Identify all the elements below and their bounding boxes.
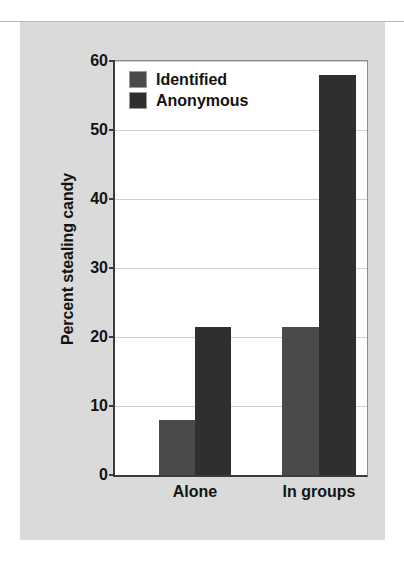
- figure-root: Percent stealing candy 60 50 40 30 20 10…: [0, 0, 404, 562]
- y-axis-title: Percent stealing candy: [59, 134, 77, 384]
- bar-alone-identified: [159, 420, 195, 475]
- legend-swatch-anonymous: [129, 92, 147, 109]
- x-category-label-alone: Alone: [173, 483, 217, 501]
- legend-swatch-identified: [129, 71, 147, 88]
- tick-mark-40: [109, 198, 115, 200]
- y-tick-label-60: 60: [90, 52, 108, 70]
- gridline-60: [115, 61, 367, 62]
- tick-mark-10: [109, 405, 115, 407]
- legend-item-anonymous: Anonymous: [129, 92, 248, 109]
- y-tick-label-30: 30: [90, 259, 108, 277]
- bar-alone-anonymous: [195, 327, 231, 475]
- legend-label-identified: Identified: [156, 72, 227, 88]
- tick-mark-60: [109, 60, 115, 62]
- legend-item-identified: Identified: [129, 71, 248, 88]
- plot-area: 60 50 40 30 20 10 0 Alone: [113, 60, 368, 477]
- y-tick-label-10: 10: [90, 397, 108, 415]
- legend-label-anonymous: Anonymous: [156, 93, 248, 109]
- legend: Identified Anonymous: [129, 71, 248, 113]
- tick-mark-50: [109, 129, 115, 131]
- chart-panel: Percent stealing candy 60 50 40 30 20 10…: [20, 22, 385, 540]
- y-tick-label-50: 50: [90, 121, 108, 139]
- bar-ingroups-anonymous: [319, 75, 356, 475]
- y-tick-label-0: 0: [99, 466, 108, 484]
- tick-mark-20: [109, 336, 115, 338]
- x-category-label-in-groups: In groups: [283, 483, 356, 501]
- y-tick-label-20: 20: [90, 328, 108, 346]
- y-tick-label-40: 40: [90, 190, 108, 208]
- tick-mark-0: [109, 474, 115, 476]
- bar-ingroups-identified: [282, 327, 319, 475]
- tick-mark-30: [109, 267, 115, 269]
